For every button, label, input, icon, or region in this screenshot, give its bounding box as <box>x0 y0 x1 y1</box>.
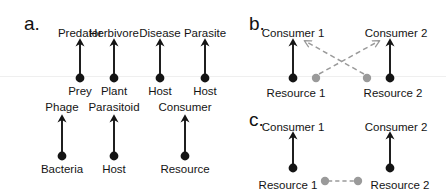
panel-b-gray-node-right <box>363 74 371 82</box>
node-dot-host-disease <box>156 74 165 83</box>
panel-c-gray-node-right <box>354 177 362 185</box>
node-dot-host-parasite <box>201 74 210 83</box>
node-dot-plant <box>110 74 119 83</box>
node-dot-resource <box>181 152 190 161</box>
node-dot-host-parasitoid <box>110 152 119 161</box>
panel-c-node-dot-resource-1 <box>289 164 298 173</box>
panel-c-node-dot-resource-2 <box>386 164 395 173</box>
panel-b-gray-dashed-right-to-consumer-1 <box>305 41 364 74</box>
panel-a-links <box>58 40 210 160</box>
panel-b-links <box>289 40 395 82</box>
diagram-vector-layer <box>0 0 446 196</box>
panel-c-links <box>289 133 395 185</box>
panel-c-gray-node-left <box>321 177 329 185</box>
node-dot-prey <box>76 74 85 83</box>
panel-b-gray-dashed-left-to-consumer-2 <box>319 41 379 74</box>
ecological-interaction-figure: a. b. c. Predator Prey Herbivore Plant D… <box>0 0 446 196</box>
panel-b-gray-node-left <box>312 74 320 82</box>
node-dot-bacteria <box>58 152 67 161</box>
panel-b-node-dot-resource-1 <box>289 74 298 83</box>
panel-b-node-dot-resource-2 <box>386 74 395 83</box>
